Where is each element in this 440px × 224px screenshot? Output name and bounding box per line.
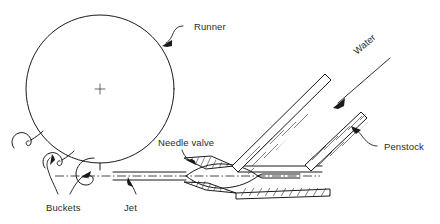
label-runner: Runner <box>194 21 226 32</box>
pipe-lower-wall <box>236 189 330 199</box>
runner-leader <box>162 26 183 47</box>
runner-center-mark <box>95 84 105 94</box>
label-penstock: Penstock <box>384 141 424 152</box>
label-jet: Jet <box>124 202 137 213</box>
penstock-leader <box>351 126 377 146</box>
horizontal-pipe <box>234 166 336 202</box>
label-buckets: Buckets <box>46 202 81 213</box>
label-needle-valve: Needle valve <box>158 137 214 148</box>
penstock-lower-wall <box>300 106 374 176</box>
diagram-canvas: Runner Needle valve Water Penstock Bucke… <box>0 0 440 224</box>
label-water: Water <box>351 31 377 56</box>
water-flow-arrow <box>333 58 390 109</box>
pelton-turbine-diagram: Runner Needle valve Water Penstock Bucke… <box>0 0 440 224</box>
